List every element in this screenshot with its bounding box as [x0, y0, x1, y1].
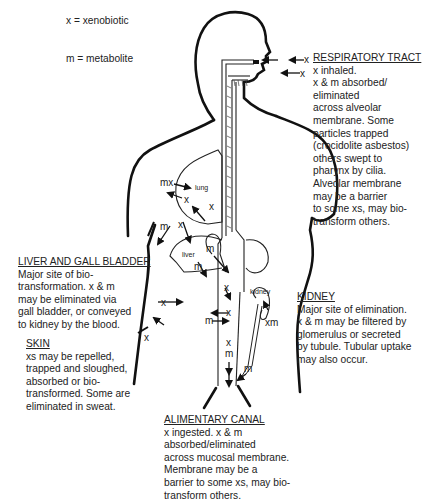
legend-metabolite: m = metabolite — [66, 53, 133, 66]
kidney-line: x & m may be filtered by — [297, 316, 411, 329]
alimentary-line: transform others. — [164, 490, 290, 499]
stomach-shape — [246, 240, 268, 273]
respiratory-line: x & m absorbed/ — [313, 77, 421, 90]
respiratory-line: pharynx by cilia. — [313, 165, 421, 178]
kidney-block: KIDNEY Major site of elimination. x & m … — [297, 291, 411, 367]
alimentary-line: absorbed/eliminated — [164, 439, 290, 452]
liver-line: Major site of bio- — [18, 269, 151, 282]
alimentary-line: barrier to some xs, may bio- — [164, 477, 290, 490]
leg-right — [238, 386, 250, 406]
respiratory-line: across alveolar — [313, 102, 421, 115]
respiratory-line: Alveolar membrane — [313, 178, 421, 191]
liver-gallbladder-block: LIVER AND GALL BLADDER Major site of bio… — [18, 256, 151, 332]
respiratory-line: eliminated — [313, 90, 421, 103]
liver-line: may be eliminated via — [18, 294, 151, 307]
skin-line: absorbed or bio- — [26, 376, 130, 389]
respiratory-title: RESPIRATORY TRACT — [313, 52, 421, 65]
label-x-skin2: x — [144, 332, 149, 343]
respiratory-line: membrane. Some — [313, 115, 421, 128]
label-kidney: kidney — [250, 288, 271, 296]
label-m-liver: m — [194, 261, 202, 272]
label-mx: mx — [160, 177, 173, 188]
label-x-gut2: x — [226, 307, 231, 318]
skin-line: trapped and sloughed, — [26, 363, 130, 376]
label-x-liver: x — [178, 219, 183, 230]
liver-title: LIVER AND GALL BLADDER — [18, 256, 151, 269]
label-x-lung2: x — [209, 201, 214, 212]
respiratory-line: to some xs, may bio- — [313, 203, 421, 216]
label-xm: xm — [265, 317, 278, 328]
label-m-skin: m — [160, 221, 168, 232]
skin-line: transformed. Some are — [26, 388, 130, 401]
alimentary-line: Membrane may be a — [164, 464, 290, 477]
label-m-canal: m — [225, 348, 233, 359]
skin-line: eliminated in sweat. — [26, 401, 130, 414]
respiratory-line: x inhaled. — [313, 65, 421, 78]
kidney-title: KIDNEY — [297, 291, 411, 304]
respiratory-line: particles trapped — [313, 128, 421, 141]
label-m-ureter: m — [244, 363, 252, 374]
alimentary-canal-block: ALIMENTARY CANAL x ingested. x & m absor… — [164, 414, 290, 499]
leg-left — [204, 388, 216, 408]
label-x-skin: x — [161, 297, 166, 308]
respiratory-line: may be a barrier — [313, 191, 421, 204]
label-liver: liver — [182, 251, 196, 258]
label-m-gut: m — [205, 315, 213, 326]
label-m-gall: m — [206, 243, 214, 254]
label-x-ingested: x — [300, 68, 305, 79]
label-lung: lung — [195, 184, 208, 192]
skin-block: SKIN xs may be repelled, trapped and slo… — [26, 338, 130, 414]
kidney-line: Major site of elimination. — [297, 304, 411, 317]
respiratory-line: (crocidolite asbestos) — [313, 140, 421, 153]
label-x-canal: x — [226, 337, 231, 348]
kidney-line: may also occur. — [297, 354, 411, 367]
liver-line: gall bladder, or conveyed — [18, 306, 151, 319]
alimentary-title: ALIMENTARY CANAL — [164, 414, 290, 427]
respiratory-tract-block: RESPIRATORY TRACT x inhaled. x & m absor… — [313, 52, 421, 228]
liver-line: transformation. x & m — [18, 281, 151, 294]
alimentary-line: across mucosal membrane. — [164, 452, 290, 465]
liver-line: to kidney by the blood. — [18, 319, 151, 332]
label-x-gut: x — [224, 282, 229, 293]
skin-title: SKIN — [26, 338, 130, 351]
kidney-line: by tubule. Tubular uptake — [297, 341, 411, 354]
respiratory-line: transform others. — [313, 216, 421, 229]
legend-xenobiotic: x = xenobiotic — [66, 15, 129, 28]
alimentary-line: x ingested. x & m — [164, 427, 290, 440]
label-x-inhaled: x — [304, 54, 309, 65]
skin-line: xs may be repelled, — [26, 351, 130, 364]
respiratory-line: others swept to — [313, 153, 421, 166]
label-x-lung: x — [184, 194, 189, 205]
kidney-line: glomerulus or secreted — [297, 329, 411, 342]
